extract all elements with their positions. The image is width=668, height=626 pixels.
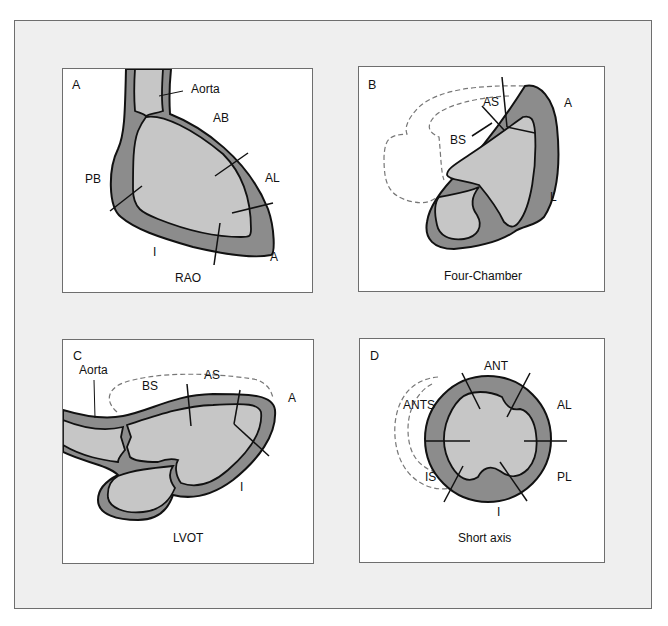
label-is: IS [425,471,436,483]
label-i: I [153,246,156,258]
label-as: AS [483,96,499,108]
label-i: I [240,481,243,493]
view-title: RAO [175,272,201,284]
panel-c-lvot: C Aorta BS AS A I LVOT [62,339,314,564]
panel-letter: D [370,350,379,363]
label-ab: AB [213,112,229,124]
panel-a-rao: A Aorta AB PB AL I A RAO [62,68,313,293]
label-i: I [497,506,500,518]
panel-b-four-chamber: B AS A BS L Four-Chamber [358,66,605,292]
label-a: A [270,251,278,263]
label-as: AS [204,369,220,381]
label-al: AL [265,172,280,184]
label-ant: ANT [484,360,508,372]
label-ants: ANTS [403,399,435,411]
label-aorta: Aorta [79,364,108,376]
label-a: A [564,97,572,109]
label-bs: BS [142,380,158,392]
view-title: Four-Chamber [444,270,522,282]
label-l: L [550,191,557,203]
view-title: LVOT [173,532,203,544]
view-title: Short axis [458,532,511,544]
label-al: AL [557,399,572,411]
label-pb: PB [85,173,101,185]
panel-d-short-axis: D ANT ANTS AL IS PL I Short axis [359,338,605,563]
label-aorta: Aorta [191,83,220,95]
label-bs: BS [450,134,466,146]
panel-letter: B [368,79,376,92]
panel-letter: C [73,350,82,363]
short-axis-diagram [360,339,605,563]
panel-letter: A [72,79,80,92]
label-pl: PL [557,471,572,483]
label-a: A [288,392,296,404]
